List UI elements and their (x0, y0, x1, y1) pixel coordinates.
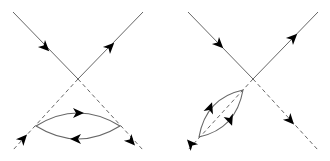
diagram-canvas (0, 0, 330, 161)
arrow-icon (38, 40, 53, 55)
arrow-icon (204, 101, 217, 115)
arrow-icon (224, 114, 237, 128)
fermion-loop (36, 113, 120, 139)
arrow-icon (103, 39, 118, 54)
dashed-line (78, 79, 143, 150)
dashed-line (253, 79, 318, 150)
left-diagram (13, 12, 143, 150)
arrow-icon (183, 136, 198, 151)
solid-line (253, 12, 318, 79)
right-diagram (183, 12, 318, 151)
arrow-icon (124, 134, 139, 149)
